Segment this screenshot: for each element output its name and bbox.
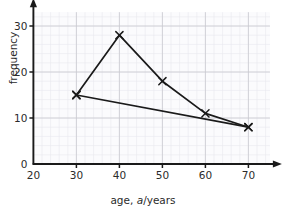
x-tick-label-40: 40 (113, 169, 126, 181)
x-axis-title-suffix: /years (143, 194, 175, 206)
x-tick-label-50: 50 (156, 169, 169, 181)
y-tick-label-0: 0 (21, 158, 28, 170)
y-axis-arrowhead (30, 0, 37, 7)
y-tick-label-20: 20 (14, 66, 27, 78)
x-tick-label-70: 70 (242, 169, 255, 181)
x-tick-label-60: 60 (199, 169, 212, 181)
x-tick-label-20: 20 (27, 169, 40, 181)
y-tick-label-10: 10 (14, 112, 27, 124)
x-axis-title: age, a/years (0, 194, 286, 206)
x-axis-arrowhead (273, 160, 282, 167)
frequency-polygon-chart: age, a/years frequency 20304050607001020… (0, 0, 286, 207)
x-axis-title-prefix: age, (110, 194, 136, 206)
x-tick-label-30: 30 (70, 169, 83, 181)
y-tick-label-30: 30 (14, 20, 27, 32)
